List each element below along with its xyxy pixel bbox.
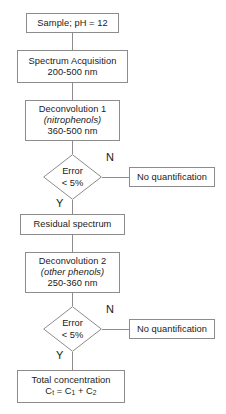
node-deconvolution2[interactable]: Deconvolution 2 (other phenols) 250-360 … (25, 252, 120, 293)
flowchart-canvas: Sample; pH = 12 Spectrum Acquisition 200… (0, 0, 226, 414)
formula-c2-subscript: 2 (93, 390, 97, 397)
node-deconvolution2-line2: (other phenols) (41, 267, 104, 278)
node-decision1[interactable]: Error < 5% (43, 154, 102, 200)
node-deconvolution1-line2: (nitrophenols) (44, 115, 102, 126)
connector-decision1-to-no-quantification1 (102, 177, 129, 178)
formula-plus-c2: + C (75, 386, 93, 396)
node-deconvolution1-line1: Deconvolution 1 (39, 104, 106, 115)
connector-deconvolution2-to-decision2 (72, 293, 73, 306)
node-deconvolution1-line3: 360-500 nm (47, 126, 97, 137)
formula-equals-c1: = C (54, 386, 72, 396)
node-deconvolution1[interactable]: Deconvolution 1 (nitrophenols) 360-500 n… (25, 100, 120, 141)
branch-label-decision1-no: N (106, 152, 114, 163)
node-sample-label: Sample; pH = 12 (37, 18, 107, 29)
node-no-quantification-1[interactable]: No quantification (129, 167, 215, 187)
node-no-quantification-2[interactable]: No quantification (129, 319, 215, 339)
connector-decision2-to-no-quantification2 (102, 329, 129, 330)
node-residual-spectrum-label: Residual spectrum (34, 219, 112, 230)
diamond-shape-icon (43, 306, 102, 352)
branch-label-decision2-yes: Y (56, 350, 63, 361)
node-total-concentration-line1: Total concentration (32, 375, 111, 386)
node-total-concentration[interactable]: Total concentration Ct = C1 + C2 (17, 370, 125, 403)
node-decision2[interactable]: Error < 5% (43, 306, 102, 352)
connector-acquisition-to-deconvolution1 (72, 83, 73, 100)
node-sample[interactable]: Sample; pH = 12 (26, 13, 119, 33)
diamond-shape-icon (43, 154, 102, 200)
node-spectrum-acquisition[interactable]: Spectrum Acquisition 200-500 nm (17, 50, 128, 83)
connector-sample-to-acquisition (72, 33, 73, 50)
node-deconvolution2-line3: 250-360 nm (47, 278, 97, 289)
node-deconvolution2-line1: Deconvolution 2 (39, 256, 106, 267)
node-no-quantification-1-label: No quantification (137, 172, 207, 183)
connector-deconvolution1-to-decision1 (72, 141, 73, 154)
node-spectrum-acquisition-line1: Spectrum Acquisition (29, 56, 117, 67)
branch-label-decision1-yes: Y (56, 198, 63, 209)
connector-decision1-to-residual (72, 200, 73, 214)
connector-residual-to-deconvolution2 (72, 235, 73, 252)
connector-decision2-to-total (72, 352, 73, 370)
node-spectrum-acquisition-line2: 200-500 nm (47, 67, 97, 78)
node-no-quantification-2-label: No quantification (137, 324, 207, 335)
branch-label-decision2-no: N (106, 304, 114, 315)
node-residual-spectrum[interactable]: Residual spectrum (20, 214, 125, 235)
node-total-concentration-formula: Ct = C1 + C2 (45, 386, 96, 397)
